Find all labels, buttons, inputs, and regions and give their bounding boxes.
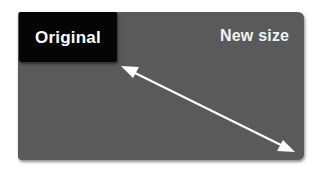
- new-size-label: New size: [220, 27, 289, 45]
- resize-diagram: Original New size: [0, 0, 320, 171]
- original-label: Original: [35, 28, 101, 48]
- original-box: Original: [19, 12, 117, 62]
